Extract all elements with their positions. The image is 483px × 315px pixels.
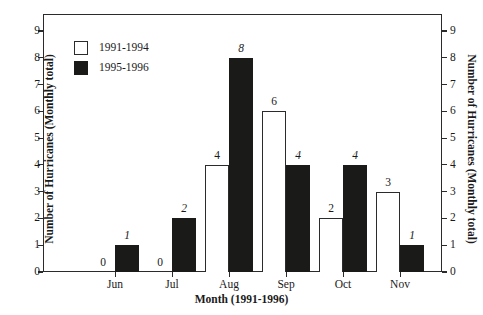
bar-value-label-jul-1995-1996: 2 xyxy=(169,203,199,215)
legend-swatch-white-icon xyxy=(74,41,88,55)
bar-value-label-jul-1991-1994: 0 xyxy=(145,257,175,269)
bar-value-label-jun-1991-1994: 0 xyxy=(88,257,118,269)
y-tick-mark-right xyxy=(442,245,447,246)
y-tick-label-left: 4 xyxy=(20,159,40,171)
y-tick-mark-right xyxy=(442,191,447,192)
x-tick-mark xyxy=(229,272,230,277)
y-tick-mark-right xyxy=(442,30,447,31)
x-tick-mark xyxy=(400,272,401,277)
y-tick-mark-right xyxy=(442,164,447,165)
bar-value-label-aug-1991-1994: 4 xyxy=(202,150,232,162)
legend-label-1995-1996: 1995-1996 xyxy=(99,62,149,74)
bar-jul-1995-1996 xyxy=(172,218,196,272)
x-tick-mark xyxy=(115,272,116,277)
x-tick-label-nov: Nov xyxy=(375,279,425,291)
y-tick-mark-right xyxy=(442,218,447,219)
y-axis-title-right: Number of Hurricanes (Monthly total) xyxy=(466,29,478,269)
y-tick-label-left: 6 xyxy=(20,105,40,117)
bar-aug-1995-1996 xyxy=(229,58,253,272)
y-tick-label-left: 1 xyxy=(20,239,40,251)
bar-value-label-oct-1995-1996: 4 xyxy=(340,150,370,162)
bar-sep-1995-1996 xyxy=(286,165,310,272)
bar-value-label-jun-1995-1996: 1 xyxy=(112,230,142,242)
legend-entry-1995-1996: 1995-1996 xyxy=(74,58,149,78)
bar-value-label-sep-1995-1996: 4 xyxy=(283,150,313,162)
y-tick-label-left: 2 xyxy=(20,212,40,224)
y-tick-label-left: 8 xyxy=(20,52,40,64)
y-tick-label-left: 5 xyxy=(20,132,40,144)
y-tick-mark-right xyxy=(442,57,447,58)
x-tick-label-oct: Oct xyxy=(318,279,368,291)
legend: 1991-1994 1995-1996 xyxy=(74,38,149,78)
bar-value-label-nov-1991-1994: 3 xyxy=(373,177,403,189)
x-tick-mark xyxy=(343,272,344,277)
y-tick-label-left: 3 xyxy=(20,186,40,198)
bar-sep-1991-1994 xyxy=(262,111,286,272)
hurricane-bar-chart: 00112233445566778899 JunJulAugSepOctNov … xyxy=(0,0,483,315)
bar-nov-1995-1996 xyxy=(400,245,424,272)
y-tick-mark-right xyxy=(442,271,447,272)
y-tick-label-left: 0 xyxy=(20,266,40,278)
bar-value-label-nov-1995-1996: 1 xyxy=(397,230,427,242)
bar-aug-1991-1994 xyxy=(205,165,229,272)
bar-value-label-sep-1991-1994: 6 xyxy=(259,96,289,108)
x-tick-label-jul: Jul xyxy=(147,279,197,291)
legend-label-1991-1994: 1991-1994 xyxy=(99,42,149,54)
x-axis-title: Month (1991-1996) xyxy=(0,293,483,305)
x-tick-label-aug: Aug xyxy=(204,279,254,291)
y-tick-mark-right xyxy=(442,84,447,85)
y-tick-mark-right xyxy=(442,138,447,139)
bar-oct-1991-1994 xyxy=(319,218,343,272)
x-tick-label-jun: Jun xyxy=(90,279,140,291)
x-tick-label-sep: Sep xyxy=(261,279,311,291)
y-tick-label-left: 9 xyxy=(20,25,40,37)
y-axis-title-left: Number of Hurricanes (Monthly total) xyxy=(43,29,55,269)
bar-oct-1995-1996 xyxy=(343,165,367,272)
bar-value-label-aug-1995-1996: 8 xyxy=(226,43,256,55)
x-tick-mark xyxy=(286,272,287,277)
bar-jun-1995-1996 xyxy=(115,245,139,272)
legend-swatch-black-icon xyxy=(74,61,88,75)
y-tick-mark-right xyxy=(442,111,447,112)
bar-value-label-oct-1991-1994: 2 xyxy=(316,203,346,215)
legend-entry-1991-1994: 1991-1994 xyxy=(74,38,149,58)
y-tick-label-left: 7 xyxy=(20,79,40,91)
x-tick-mark xyxy=(172,272,173,277)
